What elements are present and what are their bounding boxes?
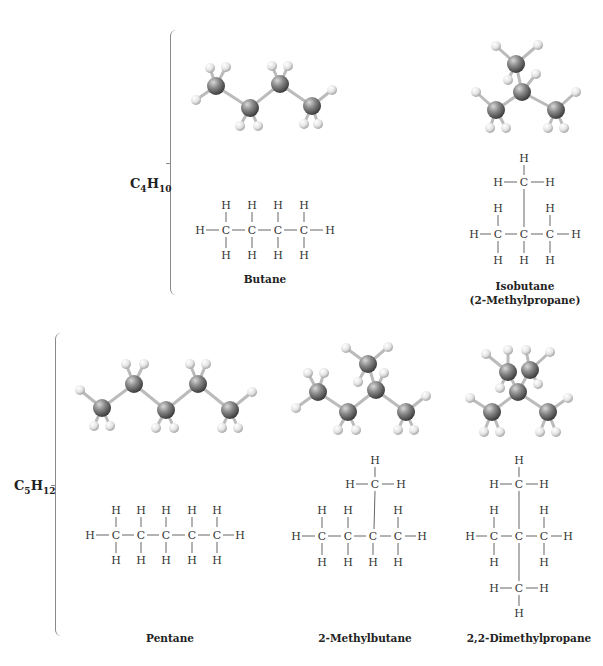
molecule-name-isobutane: Isobutane <box>455 280 595 292</box>
svg-text:H: H <box>247 249 257 262</box>
svg-text:H: H <box>539 478 549 491</box>
svg-text:H: H <box>417 530 427 543</box>
svg-text:C: C <box>490 530 498 543</box>
svg-text:H: H <box>539 504 549 517</box>
formula-element: C <box>14 478 24 493</box>
svg-text:H: H <box>299 249 309 262</box>
svg-text:H: H <box>221 199 231 212</box>
butane-3d-model <box>190 40 350 150</box>
svg-text:H: H <box>514 607 524 620</box>
svg-text:H: H <box>345 478 355 491</box>
svg-text:H: H <box>85 529 95 542</box>
svg-text:H: H <box>563 530 573 543</box>
svg-text:C: C <box>274 224 282 237</box>
svg-text:H: H <box>519 152 529 165</box>
svg-text:C: C <box>248 224 256 237</box>
svg-text:H: H <box>221 249 231 262</box>
svg-text:H: H <box>136 554 146 567</box>
svg-text:H: H <box>489 478 499 491</box>
svg-text:H: H <box>161 554 171 567</box>
molecule-subtitle-isobutane: (2-Methylpropane) <box>455 294 595 306</box>
svg-text:H: H <box>235 529 245 542</box>
svg-text:C: C <box>318 530 326 543</box>
svg-text:H: H <box>489 582 499 595</box>
svg-text:C: C <box>213 529 221 542</box>
svg-text:H: H <box>493 254 503 267</box>
molecule-name-butane: Butane <box>225 273 305 285</box>
svg-text:H: H <box>161 504 171 517</box>
2-2-dimethylpropane-structural-formula: H HCH HH HCCCH HH HCH H <box>462 450 592 620</box>
svg-text:H: H <box>187 504 197 517</box>
formula-subscript: 12 <box>43 486 56 496</box>
svg-text:C: C <box>394 530 402 543</box>
svg-text:C: C <box>371 478 379 491</box>
formula-subscript: 10 <box>159 184 172 194</box>
svg-text:H: H <box>343 556 353 569</box>
svg-text:H: H <box>539 556 549 569</box>
group-brace-c4h10 <box>170 30 177 295</box>
formula-element: H <box>147 176 159 191</box>
svg-text:H: H <box>111 554 121 567</box>
formula-element: H <box>31 478 43 493</box>
svg-text:H: H <box>370 454 380 467</box>
svg-text:H: H <box>187 554 197 567</box>
svg-text:H: H <box>393 556 403 569</box>
svg-text:C: C <box>546 228 554 241</box>
formula-c5h12: C5H12 <box>14 478 55 496</box>
svg-text:H: H <box>195 224 205 237</box>
pentane-3d-model <box>60 340 280 460</box>
2-2-dimethylpropane-3d-model <box>450 330 603 450</box>
svg-text:H: H <box>325 224 335 237</box>
svg-text:C: C <box>112 529 120 542</box>
svg-text:H: H <box>493 176 503 189</box>
svg-text:C: C <box>222 224 230 237</box>
svg-text:H: H <box>393 504 403 517</box>
svg-text:H: H <box>273 199 283 212</box>
svg-text:C: C <box>162 529 170 542</box>
isobutane-3d-model <box>460 30 590 140</box>
molecule-name-pentane: Pentane <box>130 632 210 644</box>
svg-text:C: C <box>520 228 528 241</box>
formula-c4h10: C4H10 <box>130 176 171 194</box>
svg-text:H: H <box>519 254 529 267</box>
svg-text:H: H <box>212 554 222 567</box>
svg-text:C: C <box>188 529 196 542</box>
svg-text:H: H <box>368 556 378 569</box>
2-methylbutane-3d-model <box>280 330 450 450</box>
svg-text:H: H <box>545 176 555 189</box>
formula-element: C <box>130 176 140 191</box>
2-methylbutane-structural-formula: H HCH HHH HCCCCH HHHH <box>288 450 438 570</box>
svg-text:C: C <box>540 530 548 543</box>
svg-text:H: H <box>545 254 555 267</box>
svg-text:C: C <box>369 530 377 543</box>
svg-text:H: H <box>299 199 309 212</box>
svg-text:C: C <box>515 582 523 595</box>
svg-text:H: H <box>493 202 503 215</box>
svg-text:C: C <box>137 529 145 542</box>
svg-text:C: C <box>494 228 502 241</box>
svg-text:H: H <box>514 454 524 467</box>
svg-text:C: C <box>515 530 523 543</box>
butane-structural-formula: H HCH HCH HCH HCH H <box>190 195 340 265</box>
molecule-name-2-methylbutane: 2-Methylbutane <box>300 632 430 644</box>
svg-text:H: H <box>545 202 555 215</box>
svg-text:H: H <box>539 582 549 595</box>
isobutane-structural-formula: H HCH HH HCCCH HHH <box>468 148 588 268</box>
svg-text:H: H <box>571 228 581 241</box>
molecule-name-2-2-dimethylpropane: 2,2-Dimethylpropane <box>455 632 603 644</box>
svg-text:H: H <box>317 504 327 517</box>
svg-text:H: H <box>489 556 499 569</box>
svg-text:H: H <box>343 504 353 517</box>
svg-text:H: H <box>136 504 146 517</box>
pentane-structural-formula: H HCH HCH HCH HCH HCH H <box>82 500 252 570</box>
svg-text:C: C <box>300 224 308 237</box>
svg-text:H: H <box>317 556 327 569</box>
svg-text:H: H <box>212 504 222 517</box>
svg-text:C: C <box>515 478 523 491</box>
svg-text:H: H <box>247 199 257 212</box>
svg-text:H: H <box>273 249 283 262</box>
svg-text:C: C <box>520 176 528 189</box>
svg-text:H: H <box>291 530 301 543</box>
svg-text:H: H <box>111 504 121 517</box>
svg-text:H: H <box>469 228 479 241</box>
